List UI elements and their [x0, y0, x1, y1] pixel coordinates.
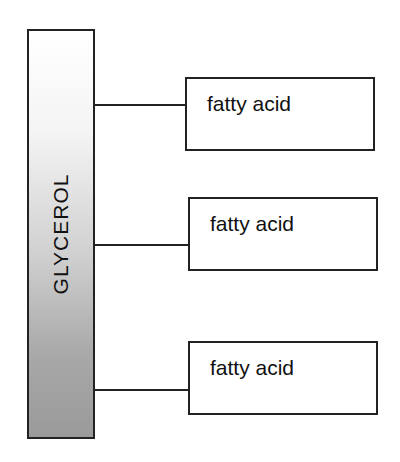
fatty-acid-box-3: fatty acid	[188, 341, 378, 415]
connector-line-2	[93, 244, 189, 246]
connector-line-3	[93, 389, 189, 391]
fatty-acid-box-2: fatty acid	[188, 197, 378, 271]
fatty-acid-label-3: fatty acid	[210, 356, 294, 380]
fatty-acid-box-1: fatty acid	[185, 77, 375, 151]
fatty-acid-label-1: fatty acid	[207, 92, 291, 116]
glycerol-backbone: GLYCEROL	[27, 29, 95, 439]
fatty-acid-label-2: fatty acid	[210, 212, 294, 236]
glycerol-label: GLYCEROL	[49, 174, 73, 295]
connector-line-1	[93, 104, 186, 106]
